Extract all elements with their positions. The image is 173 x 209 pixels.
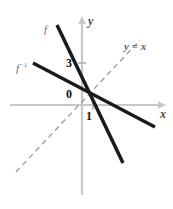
x-axis-label: x (160, 108, 166, 120)
identity-line-label: y = x (124, 41, 146, 52)
x-axis (10, 101, 166, 109)
origin-label: 0 (66, 88, 72, 100)
curve-label-f: f (44, 24, 47, 35)
f-inverse-exponent: −1 (19, 61, 27, 69)
x-tick-label-1: 1 (86, 110, 92, 122)
graph-figure: f f−1 y = x y x 0 3 1 (0, 0, 173, 209)
y-axis-arrowhead (78, 16, 86, 24)
y-tick-label-3: 3 (66, 57, 72, 69)
y-axis-label: y (88, 15, 93, 27)
curve-f-inverse (33, 63, 155, 127)
curve-label-f-inverse: f−1 (16, 62, 27, 74)
plot-canvas (0, 0, 173, 209)
